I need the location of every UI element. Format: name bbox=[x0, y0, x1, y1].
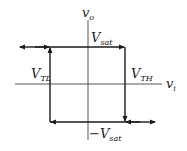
vtl-label: VTL bbox=[31, 66, 51, 83]
vth-label: VTH bbox=[131, 66, 154, 83]
x-axis-label: vi bbox=[166, 76, 176, 93]
hysteresis-diagram: vo vi Vsat −Vsat VTL VTH bbox=[0, 0, 187, 151]
neg-vsat-label: −Vsat bbox=[89, 126, 122, 143]
y-axis-label: vo bbox=[82, 5, 94, 22]
vsat-label: Vsat bbox=[91, 30, 113, 47]
